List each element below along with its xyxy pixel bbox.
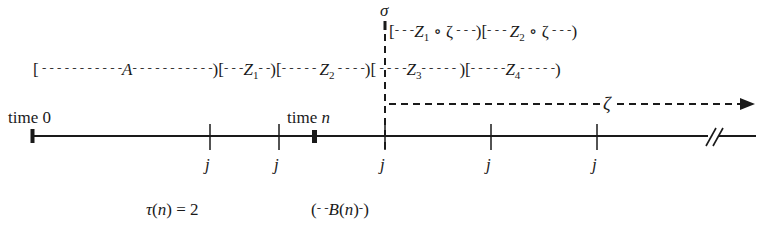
tick-label: j [274, 156, 279, 173]
dash-fill: - - [317, 200, 329, 215]
tau-annotation: τ(n) = 2 [146, 201, 199, 218]
dash-fill: - - - - [335, 60, 365, 75]
dash-fill: - - - - [376, 60, 406, 75]
dash-fill: - - - - - [282, 60, 320, 75]
interval-close: ) [571, 22, 577, 41]
tau-fn: τ [146, 200, 152, 219]
interval-var: Z [407, 60, 416, 79]
time-zero-marker [31, 129, 35, 143]
time-n-marker [312, 130, 317, 143]
dash-fill: - - - - - - - - - - - [39, 60, 122, 75]
interval-var: A [122, 60, 132, 79]
tau-arg: n [158, 200, 167, 219]
tau-value: = 2 [176, 200, 198, 219]
tick-label: j [205, 156, 210, 173]
dash-fill: - - - - - - - - - - - [132, 60, 212, 75]
interval-close: ) [555, 60, 561, 79]
tick-label: j [486, 156, 491, 173]
interval-var: Z [414, 22, 423, 41]
interval-var: Z [505, 60, 514, 79]
interval-var: Z [320, 60, 329, 79]
sigma-label: σ [380, 2, 388, 19]
tick-label: j [592, 156, 597, 173]
dash-fill: - - - - - [520, 60, 555, 75]
dash-fill: - - - - - [421, 60, 459, 75]
dash-fill: - [359, 200, 363, 215]
dash-fill: - - - [487, 22, 510, 37]
interval-suffix: ∘ ζ [525, 22, 549, 41]
block-annotation: (- -B(n)-) [311, 201, 369, 218]
time-word: time [287, 108, 317, 127]
dash-fill: - - - - - [471, 60, 506, 75]
upper-interval-row: [- - -Z1 ∘ ζ - - -)[- - - Z2 ∘ ζ - - -) [389, 23, 577, 40]
time-n-var: n [321, 108, 330, 127]
block-fn: B [329, 200, 339, 219]
time-zero-label: time 0 [8, 109, 51, 126]
interval-var: Z [243, 60, 252, 79]
shift-label: ζ [603, 94, 611, 113]
interval-var: Z [510, 22, 519, 41]
dash-fill: - - - [224, 60, 244, 75]
sigma-line-head [384, 21, 387, 30]
arrowhead-icon [740, 98, 755, 110]
dash-fill: - - [258, 60, 270, 75]
dash-fill: - - - [549, 22, 572, 37]
dash-fill: - - - [453, 22, 476, 37]
lower-interval-row: [ - - - - - - - - - - -A- - - - - - - - … [33, 61, 561, 78]
interval-suffix: ∘ ζ [429, 22, 453, 41]
dash-fill: - - - [395, 22, 415, 37]
block-arg: n [345, 200, 354, 219]
tick-label: j [380, 156, 385, 173]
time-n-label: time n [287, 109, 330, 126]
diagram-canvas [0, 0, 762, 231]
